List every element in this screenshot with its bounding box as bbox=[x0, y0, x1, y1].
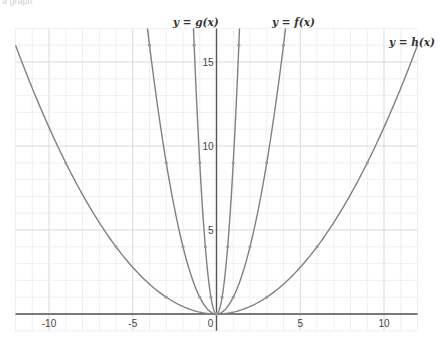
x-tick-label: -10 bbox=[42, 318, 57, 329]
point-f bbox=[148, 44, 151, 47]
x-tick-label: -5 bbox=[128, 318, 137, 329]
curve-label-f: y = f(x) bbox=[271, 16, 315, 28]
point-g bbox=[209, 296, 212, 299]
point-f bbox=[181, 245, 184, 248]
point-h bbox=[165, 296, 168, 299]
point-g bbox=[220, 296, 223, 299]
curve-label-g: y = g(x) bbox=[172, 16, 219, 28]
point-g bbox=[226, 245, 229, 248]
point-f bbox=[232, 296, 235, 299]
curve-labels: y = g(x) y = f(x) y = h(x) bbox=[172, 16, 435, 48]
chart: -10 -5 0 5 10 5 10 15 y = g(x) y = f(x) … bbox=[0, 0, 445, 341]
point-h bbox=[215, 312, 218, 315]
point-g bbox=[232, 161, 235, 164]
point-g bbox=[237, 44, 240, 47]
point-h bbox=[64, 161, 67, 164]
point-f bbox=[198, 296, 201, 299]
point-h bbox=[265, 296, 268, 299]
point-g bbox=[193, 44, 196, 47]
point-h bbox=[315, 245, 318, 248]
point-g bbox=[204, 245, 207, 248]
point-h bbox=[114, 245, 117, 248]
point-f bbox=[248, 245, 251, 248]
x-tick-label: 10 bbox=[378, 318, 390, 329]
y-tick-label: 15 bbox=[202, 57, 214, 68]
x-tick-label: 0 bbox=[208, 318, 214, 329]
y-tick-label: 10 bbox=[202, 141, 214, 152]
point-g bbox=[198, 161, 201, 164]
curve-label-h: y = h(x) bbox=[388, 36, 435, 48]
x-tick-label: 5 bbox=[297, 318, 303, 329]
point-h bbox=[366, 161, 369, 164]
point-f bbox=[265, 161, 268, 164]
point-f bbox=[165, 161, 168, 164]
y-tick-label: 5 bbox=[208, 225, 214, 236]
point-f bbox=[282, 44, 285, 47]
